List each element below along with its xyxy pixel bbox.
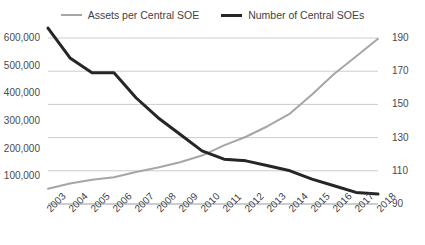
legend-label-count: Number of Central SOEs [248, 9, 364, 21]
right-axis-tick-label: 110 [392, 166, 408, 176]
series-line-assets-per-central-soe [48, 39, 378, 189]
right-axis-tick-label: 150 [392, 99, 409, 109]
left-axis-tick-label: 600,000 [4, 33, 40, 43]
legend-swatch-line-icon-count [221, 14, 242, 17]
left-y-axis: 100,000200,000300,000400,000500,000600,0… [0, 0, 44, 245]
series-line-number-of-central-soes [48, 28, 378, 194]
right-y-axis: 90110130150170190 [386, 0, 425, 245]
left-axis-tick-label: 300,000 [4, 116, 40, 126]
left-axis-tick-label: 500,000 [4, 61, 40, 71]
legend-swatch-line-icon-assets [61, 14, 82, 16]
plot-svg [48, 38, 378, 204]
legend-label-assets: Assets per Central SOE [88, 9, 199, 21]
right-axis-tick-label: 190 [392, 33, 409, 43]
left-axis-tick-label: 400,000 [4, 88, 40, 98]
chart-container: Assets per Central SOE Number of Central… [0, 0, 425, 245]
left-axis-tick-label: 200,000 [4, 144, 40, 154]
legend-item-assets-per-central-soe[interactable]: Assets per Central SOE [61, 9, 199, 21]
x-axis: 2003200420052006200720082009201020112012… [48, 207, 378, 245]
series-lines [48, 28, 378, 194]
right-axis-tick-label: 130 [392, 133, 409, 143]
left-axis-tick-label: 100,000 [4, 171, 40, 181]
right-axis-tick-label: 170 [392, 66, 409, 76]
chart-legend: Assets per Central SOE Number of Central… [0, 9, 425, 21]
plot-area [48, 38, 378, 204]
legend-item-number-of-central-soes[interactable]: Number of Central SOEs [221, 9, 364, 21]
